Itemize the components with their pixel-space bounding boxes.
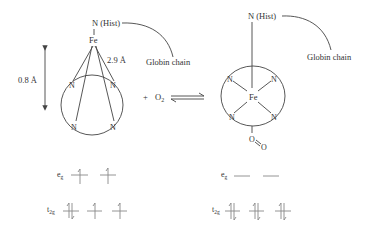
deoxy-ring-n: N [71,123,77,132]
plus-sign: + [143,92,148,102]
deoxy-fe-label: Fe [89,35,98,45]
oxygen-atom-1: O [249,135,255,144]
oxy-fe-n-bond [258,81,271,91]
equilibrium-arrow-icon [171,93,204,102]
oxy-ring-n: N [271,113,277,122]
deoxy-orbital-diagram: eg t2g [47,168,127,219]
paired-electrons [275,203,291,220]
oxy-heme-structure: N (Hist) Globin chain Fe N N N N O O [221,11,352,152]
oxy-fe-n-bond [258,102,271,113]
oxygen-atom-2: O [261,143,267,152]
oxy-axial-histidine-label: N (Hist) [248,11,276,21]
deoxy-fe-n-bond [76,46,92,121]
oxy-fe-n-bond [234,102,247,113]
deoxy-t2g-label: t2g [47,205,55,215]
oxy-ring-n: N [229,113,235,122]
deoxy-ring-n: N [110,81,116,90]
deoxy-globin-chain-curve [122,23,173,57]
deoxy-heme-structure: N (Hist) Globin chain Fe N N N N 2.9 Å 0… [18,18,191,135]
oxy-fe-label: Fe [249,92,258,102]
oxy-t2g-label: t2g [212,205,220,215]
oxy-ring-n: N [227,75,233,84]
oxy-fe-n-bond [233,81,247,91]
o2-label: O2 [155,92,164,103]
oxy-eg-label: eg [221,170,228,180]
deoxy-eg-label: eg [57,170,64,180]
deoxy-ring-n: N [69,81,75,90]
deoxy-globin-chain-label: Globin chain [146,57,191,67]
paired-electrons [225,203,240,220]
oxy-orbital-diagram: eg t2g [212,170,291,220]
oxy-globin-chain-curve [282,16,331,50]
displacement-label: 0.8 Å [18,75,38,85]
oxy-ring-n: N [271,75,277,84]
hemoglobin-oxygen-binding-diagram: N (Hist) Globin chain Fe N N N N 2.9 Å 0… [0,0,372,232]
deoxy-axial-histidine-label: N (Hist) [92,18,120,28]
oxy-globin-chain-label: Globin chain [307,52,352,62]
paired-electrons [249,203,264,220]
distance-label: 2.9 Å [107,55,127,65]
deoxy-ring-n: N [110,123,116,132]
reaction-equation: + O2 [143,92,204,103]
